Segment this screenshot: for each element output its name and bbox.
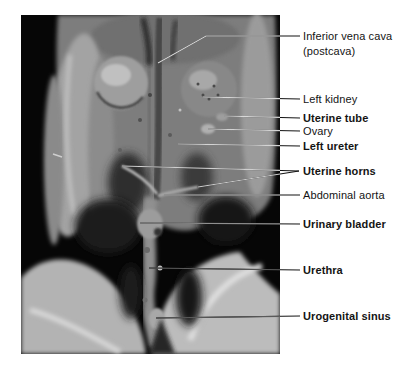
label-text: Urethra (303, 263, 343, 278)
right-kidney-highlight (101, 64, 131, 86)
top-tissue-band (90, 12, 240, 64)
label-left-ureter: Left ureter (303, 139, 359, 154)
label-left-kidney: Left kidney (303, 92, 357, 107)
label-ovary: Ovary (303, 124, 333, 139)
uterine-tube-shape (216, 113, 228, 121)
label-text: Urinary bladder (303, 217, 386, 232)
label-text-line2: (postcava) (303, 44, 392, 59)
label-text: Abdominal aorta (303, 188, 385, 203)
waist-shadow-left (75, 199, 141, 253)
label-text: Uterine horns (303, 164, 376, 179)
label-text: Left kidney (303, 92, 357, 107)
between-leg-shadow-left (120, 265, 142, 319)
flank-shadow-right (181, 153, 213, 201)
anatomy-figure: Inferior vena cava (postcava) Left kidne… (0, 0, 402, 371)
left-kidney-highlight (189, 70, 217, 90)
label-text: Urogenital sinus (303, 309, 391, 324)
waist-shadow-right (198, 196, 254, 244)
label-urinary-bladder: Urinary bladder (303, 217, 386, 232)
bladder-shadow-spot (154, 228, 162, 236)
dissection-photo (21, 12, 280, 354)
label-urethra: Urethra (303, 263, 343, 278)
label-abdominal-aorta: Abdominal aorta (303, 188, 385, 203)
label-text: Ovary (303, 124, 333, 139)
label-text: Inferior vena cava (303, 29, 392, 44)
label-urogenital-sinus: Urogenital sinus (303, 309, 391, 324)
label-uterine-horns: Uterine horns (303, 164, 376, 179)
label-inferior-vena-cava: Inferior vena cava (postcava) (303, 29, 392, 59)
vena-cava-vessel (156, 18, 160, 200)
left-edge-strip (44, 75, 64, 245)
label-text: Left ureter (303, 139, 359, 154)
